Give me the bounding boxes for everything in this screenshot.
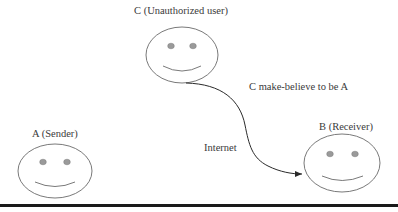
label-internet: Internet [204, 143, 237, 154]
diagram-svg [0, 0, 398, 212]
face-b-smiley-icon [304, 134, 380, 192]
label-sender: A (Sender) [32, 129, 78, 140]
label-receiver: B (Receiver) [319, 122, 373, 133]
bottom-divider [0, 204, 398, 207]
impersonation-arrow [186, 83, 302, 174]
label-unauthorized-user: C (Unauthorized user) [134, 6, 228, 17]
face-c-smiley-icon [146, 27, 218, 83]
face-a-smiley-icon [18, 144, 92, 198]
label-impersonation: C make-believe to be A [249, 82, 348, 93]
diagram-canvas: C (Unauthorized user) A (Sender) B (Rece… [0, 0, 398, 212]
